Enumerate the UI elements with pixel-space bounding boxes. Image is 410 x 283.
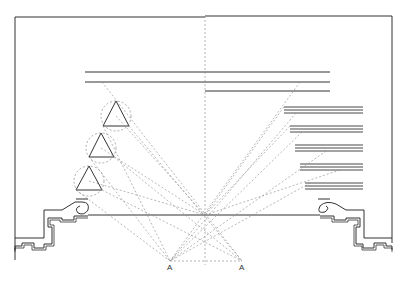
right-borders (284, 107, 363, 189)
sightline-diagram: A A (0, 0, 410, 283)
point-label-right: A (239, 263, 244, 272)
diagram-canvas (0, 0, 410, 283)
proscenium-outline-right (205, 16, 392, 243)
point-label-left: A (167, 263, 172, 272)
sightlines (76, 16, 340, 265)
